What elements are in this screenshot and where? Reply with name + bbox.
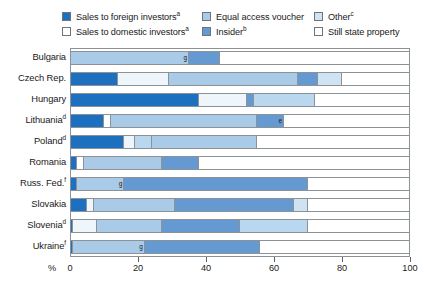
bar-segment[interactable] — [124, 135, 134, 149]
bar-segment[interactable] — [169, 72, 298, 86]
bar-segment[interactable] — [77, 156, 84, 170]
legend-swatch-sales-to-foreign-investors — [62, 12, 71, 21]
table-row — [70, 93, 410, 107]
bar-segment[interactable] — [247, 93, 254, 107]
legend-swatch-still-state-property — [314, 27, 323, 36]
bar-segment[interactable] — [162, 156, 199, 170]
chart-legend: Sales to foreign investorsaSales to dome… — [62, 9, 420, 39]
table-row — [70, 156, 410, 170]
bar-segment[interactable] — [189, 51, 220, 65]
bar-segment[interactable] — [111, 114, 257, 128]
segment-footnote-marker: g — [183, 55, 187, 62]
axis-tick-label: 20 — [123, 262, 153, 274]
category-label-text: Slovakia — [31, 198, 66, 209]
legend-item-still-state-property[interactable]: Still state property — [314, 27, 420, 37]
legend-item-insider[interactable]: Insiderb — [202, 27, 314, 37]
bar-segment[interactable] — [315, 93, 410, 107]
category-label-text: Czech Rep. — [18, 72, 66, 83]
stacked-bar: g — [70, 240, 410, 254]
bar-segment[interactable] — [199, 93, 247, 107]
category-label-text: Lithuania — [25, 114, 62, 125]
legend-label-insider: Insiderb — [216, 27, 246, 37]
bar-segment[interactable] — [94, 198, 176, 212]
table-row: g — [70, 51, 410, 65]
bar-segment[interactable]: e — [257, 114, 284, 128]
privatization-method-stacked-bar-chart: Sales to foreign investorsaSales to dome… — [0, 0, 426, 291]
bar-segment[interactable] — [175, 198, 294, 212]
segment-footnote-marker: g — [119, 181, 123, 188]
bar-segment[interactable] — [260, 240, 410, 254]
category-footnote-marker: d — [63, 218, 66, 225]
bar-segment[interactable] — [124, 177, 308, 191]
legend-swatch-sales-to-domestic-investors — [62, 27, 71, 36]
legend-footnote-marker: b — [243, 24, 246, 31]
category-label-text: Hungary — [31, 93, 66, 104]
bar-segment[interactable] — [294, 198, 308, 212]
legend-swatch-equal-access-voucher — [202, 12, 211, 21]
bar-segment[interactable] — [70, 198, 87, 212]
bar-segment[interactable] — [70, 177, 77, 191]
stacked-bar — [70, 93, 410, 107]
category-label-text: Romania — [29, 156, 66, 167]
bar-segment[interactable]: g — [70, 51, 189, 65]
legend-item-sales-to-foreign-investors[interactable]: Sales to foreign investorsa — [62, 12, 202, 22]
bar-segment[interactable] — [70, 93, 199, 107]
axis-tick-label: 40 — [191, 262, 221, 274]
bar-segment[interactable] — [240, 219, 308, 233]
bar-segment[interactable] — [118, 72, 169, 86]
legend-label-other: Otherc — [328, 12, 354, 22]
bar-segment[interactable] — [73, 219, 97, 233]
axis-tick-label: 60 — [259, 262, 289, 274]
table-row: g — [70, 177, 410, 191]
category-footnote-marker: f — [64, 238, 66, 245]
axis-unit-label: % — [48, 262, 56, 274]
bar-rows: gegg — [70, 48, 410, 257]
stacked-bar: g — [70, 177, 410, 191]
value-axis-tick-labels: 020406080100 — [0, 262, 426, 276]
bar-segment[interactable] — [220, 51, 410, 65]
category-label-text: Slovenia — [27, 219, 62, 230]
legend-swatch-insider — [202, 27, 211, 36]
category-label-ukraine: Ukrainef — [0, 239, 66, 253]
stacked-bar — [70, 135, 410, 149]
legend-label-still-state-property: Still state property — [328, 27, 400, 37]
legend-item-sales-to-domestic-investors[interactable]: Sales to domestic investorsa — [62, 27, 202, 37]
bar-segment[interactable] — [298, 72, 318, 86]
legend-footnote-marker: a — [185, 24, 188, 31]
bar-segment[interactable] — [70, 114, 104, 128]
bar-segment[interactable] — [145, 240, 261, 254]
bar-segment[interactable] — [97, 219, 162, 233]
category-label-text: Bulgaria — [32, 51, 66, 62]
bar-segment[interactable] — [308, 219, 410, 233]
bar-segment[interactable] — [257, 135, 410, 149]
bar-segment[interactable] — [162, 219, 240, 233]
bar-segment[interactable] — [284, 114, 410, 128]
bar-segment[interactable] — [199, 156, 410, 170]
category-label-hungary: Hungary — [0, 92, 66, 106]
bar-segment[interactable] — [254, 93, 315, 107]
legend-footnote-marker: a — [177, 9, 180, 16]
bar-segment[interactable] — [308, 177, 410, 191]
bar-segment[interactable]: g — [73, 240, 144, 254]
bar-segment[interactable] — [135, 135, 152, 149]
axis-tick-label: 80 — [327, 262, 357, 274]
bar-segment[interactable] — [342, 72, 410, 86]
table-row — [70, 198, 410, 212]
bar-segment[interactable] — [87, 198, 94, 212]
legend-item-equal-access-voucher[interactable]: Equal access voucher — [202, 12, 314, 22]
bar-segment[interactable] — [104, 114, 111, 128]
stacked-bar: g — [70, 51, 410, 65]
bar-segment[interactable] — [318, 72, 342, 86]
bar-segment[interactable] — [308, 198, 410, 212]
bar-segment[interactable] — [152, 135, 257, 149]
legend-item-other[interactable]: Otherc — [314, 12, 420, 22]
legend-label-sales-to-foreign-investors: Sales to foreign investorsa — [76, 12, 180, 22]
category-label-czech-rep: Czech Rep. — [0, 71, 66, 85]
legend-label-equal-access-voucher: Equal access voucher — [216, 12, 304, 22]
bar-segment[interactable] — [70, 72, 118, 86]
bar-segment[interactable] — [70, 156, 77, 170]
bar-segment[interactable] — [70, 135, 124, 149]
stacked-bar: e — [70, 114, 410, 128]
bar-segment[interactable]: g — [77, 177, 125, 191]
bar-segment[interactable] — [84, 156, 162, 170]
